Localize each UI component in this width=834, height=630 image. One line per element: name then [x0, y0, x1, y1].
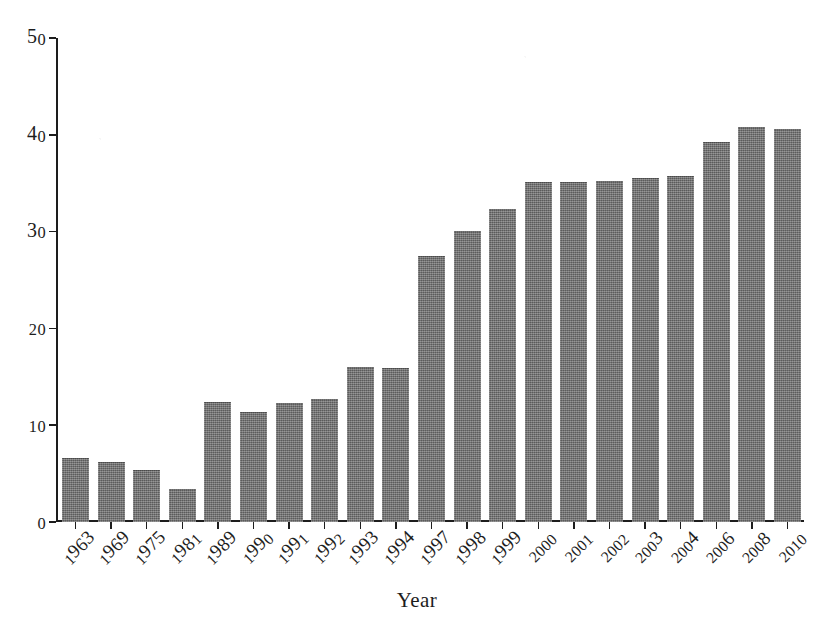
bar-1990: [240, 412, 267, 522]
bar-1999: [489, 209, 516, 522]
plot-area: 01020304050: [56, 38, 804, 522]
y-tick-label-50: 50: [27, 26, 46, 49]
x-tick-2006: [716, 522, 718, 529]
y-tick-label-10: 10: [29, 413, 46, 436]
x-tick-2003: [644, 522, 646, 529]
bar-1994: [382, 368, 409, 522]
x-tick-label-1999: 1999: [485, 527, 527, 569]
x-tick-1969: [110, 522, 112, 529]
x-tick-label-2010: 2010: [772, 528, 810, 566]
x-tick-label-1975: 1975: [129, 527, 171, 569]
x-tick-1990: [253, 522, 255, 529]
x-tick-label-2002: 2002: [594, 528, 632, 566]
x-tick-label-2008: 2008: [736, 527, 776, 567]
y-tick-30: [49, 231, 56, 233]
x-tick-1997: [431, 522, 433, 529]
bar-chart-figure: 01020304050 1963196919751981198919901991…: [0, 0, 834, 630]
x-tick-1999: [502, 522, 504, 529]
x-tick-1989: [217, 522, 219, 529]
x-tick-label-1992: 1992: [308, 527, 349, 568]
x-tick-1963: [75, 522, 77, 529]
x-tick-2000: [538, 522, 540, 529]
y-tick-20: [49, 328, 56, 330]
x-axis-title: Year: [0, 588, 834, 613]
y-tick-0: [49, 521, 56, 523]
y-axis-line: [56, 38, 58, 522]
x-tick-1993: [360, 522, 362, 529]
bar-2001: [560, 182, 587, 522]
x-tick-label-1997: 1997: [413, 527, 455, 569]
x-tick-label-2001: 2001: [559, 528, 597, 566]
x-tick-1991: [288, 522, 290, 529]
y-tick-label-30: 30: [27, 220, 46, 243]
y-tick-label-0: 0: [37, 510, 46, 533]
bar-1963: [62, 458, 89, 522]
bar-2006: [703, 142, 730, 522]
x-tick-label-1989: 1989: [200, 527, 242, 569]
x-tick-label-2004: 2004: [664, 527, 704, 567]
bar-2003: [632, 178, 659, 522]
x-tick-label-2000: 2000: [523, 528, 561, 566]
x-tick-1981: [182, 522, 184, 529]
x-tick-2010: [787, 522, 789, 529]
x-tick-label-1981: 1981: [165, 527, 206, 568]
bar-1993: [347, 367, 374, 522]
x-tick-label-1963: 1963: [57, 527, 99, 569]
x-tick-1994: [395, 522, 397, 529]
x-tick-1992: [324, 522, 326, 529]
y-tick-label-20: 20: [29, 316, 46, 339]
x-tick-label-1993: 1993: [342, 527, 384, 569]
x-tick-1998: [466, 522, 468, 529]
x-tick-label-1991: 1991: [272, 527, 313, 568]
bar-1989: [204, 402, 231, 522]
x-tick-2002: [609, 522, 611, 529]
x-tick-1975: [146, 522, 148, 529]
x-tick-2004: [680, 522, 682, 529]
bar-1975: [133, 470, 160, 522]
bar-2010: [774, 129, 801, 522]
bar-1969: [98, 462, 125, 522]
x-tick-label-1969: 1969: [93, 527, 135, 569]
bar-2002: [596, 181, 623, 522]
x-tick-2008: [751, 522, 753, 529]
x-tick-label-1990: 1990: [236, 527, 277, 568]
x-tick-label-2003: 2003: [629, 527, 669, 567]
bar-2000: [525, 182, 552, 522]
y-tick-40: [49, 134, 56, 136]
y-tick-label-40: 40: [27, 123, 46, 146]
bar-1992: [311, 399, 338, 522]
y-tick-50: [49, 37, 56, 39]
x-tick-2001: [573, 522, 575, 529]
bar-1991: [276, 403, 303, 522]
x-tick-label-1994: 1994: [378, 527, 420, 569]
x-tick-label-2006: 2006: [700, 527, 740, 567]
bar-2008: [738, 127, 765, 522]
bar-1981: [169, 489, 196, 522]
bar-1998: [454, 231, 481, 522]
y-tick-10: [49, 424, 56, 426]
bar-1997: [418, 256, 445, 522]
bar-2004: [667, 176, 694, 522]
x-tick-label-1998: 1998: [449, 527, 491, 569]
